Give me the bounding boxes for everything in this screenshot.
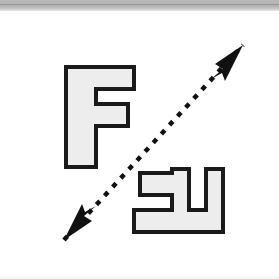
- bottom-scan-band: [0, 273, 279, 279]
- arrow-head-down-left-icon: [64, 204, 96, 240]
- top-scan-band: [0, 0, 279, 11]
- shape-f-upright: [66, 67, 134, 167]
- shape-f-rotated: [134, 169, 223, 232]
- figure-root: Rotation relation between two F shapes: [0, 0, 279, 279]
- arrow-head-up-right-icon: [211, 45, 243, 81]
- figure-canvas: [0, 11, 279, 273]
- rotation-figure-svg: [0, 11, 279, 273]
